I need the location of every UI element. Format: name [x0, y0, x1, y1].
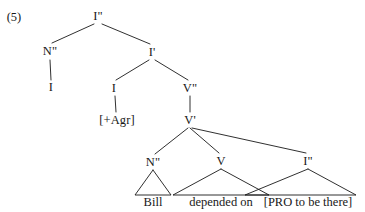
- edge-ip-root-to-np-subject: [52, 24, 94, 43]
- edge-vbar-to-v-head: [190, 128, 219, 153]
- edge-ibar-to-vp: [155, 60, 188, 80]
- edge-ip-root-to-ibar: [102, 24, 150, 44]
- node-n-subject: I: [49, 81, 53, 94]
- node-agr-feature: [+Agr]: [99, 114, 134, 127]
- edge-np-subject-to-n-subject: [50, 60, 51, 80]
- leaf-pro-clause: [PRO to be there]: [264, 196, 353, 209]
- edge-ibar-to-i-head: [116, 60, 149, 80]
- edge-i-head-to-agr: [115, 96, 116, 112]
- node-ip-embedded: I": [303, 155, 312, 168]
- node-vbar: V': [184, 114, 195, 127]
- node-vp: V": [183, 82, 197, 95]
- node-ibar: I': [149, 46, 156, 59]
- triangle-bill: [135, 170, 171, 195]
- node-i-head: I: [112, 82, 116, 95]
- edge-vbar-to-ip-embedded: [192, 128, 306, 153]
- node-ip-root: I": [93, 10, 102, 23]
- node-np-object: N": [146, 156, 160, 169]
- node-np-subject: N": [43, 45, 57, 58]
- edge-vbar-to-np-object: [155, 128, 188, 154]
- tree-lines: [0, 0, 365, 212]
- syntax-tree-figure: (5) I" N" I' I I V" [+Agr] V' N" V I" Bi…: [0, 0, 365, 212]
- leaf-depended-on: depended on: [189, 196, 253, 209]
- node-v-head: V: [216, 155, 225, 168]
- example-number: (5): [7, 11, 22, 24]
- leaf-bill: Bill: [144, 196, 163, 209]
